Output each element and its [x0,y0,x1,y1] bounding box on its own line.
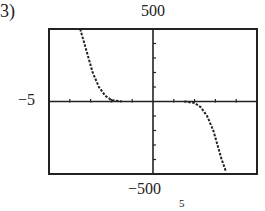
curve-branch [80,29,122,102]
plot-area [0,0,265,211]
curve-branch [184,102,226,172]
